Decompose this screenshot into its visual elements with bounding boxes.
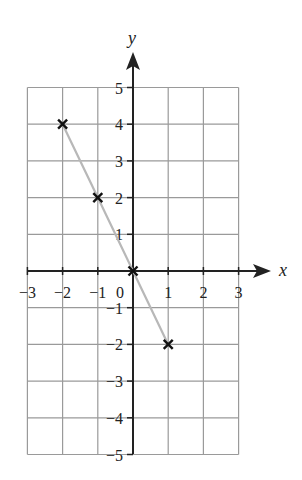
x-axis-label: x	[278, 260, 287, 280]
x-tick-label: 3	[235, 284, 243, 301]
y-tick-label: 2	[115, 190, 123, 207]
y-tick-label: −1	[106, 300, 123, 317]
coordinate-plane: x y 0 −3−2−112354321−1−2−3−4−5	[0, 0, 302, 480]
y-axis-label: y	[126, 28, 136, 48]
x-tick-label: 1	[164, 284, 172, 301]
y-tick-label: 5	[115, 80, 123, 97]
x-tick-label: −1	[89, 284, 106, 301]
x-tick-label: −2	[54, 284, 71, 301]
y-tick-label: 4	[115, 116, 123, 133]
y-tick-label: −5	[106, 447, 123, 464]
y-tick-label: −3	[106, 373, 123, 390]
y-tick-label: −4	[106, 410, 123, 427]
y-tick-label: −2	[106, 336, 123, 353]
x-tick-label: −3	[19, 284, 36, 301]
y-tick-label: 3	[115, 153, 123, 170]
x-tick-label: 2	[199, 284, 207, 301]
origin-label: 0	[116, 284, 124, 301]
axes: x y 0	[27, 28, 287, 454]
